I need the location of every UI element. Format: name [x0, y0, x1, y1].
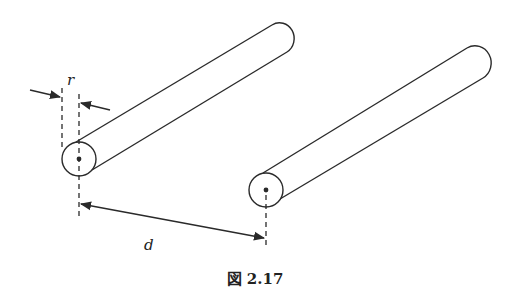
- diagram-canvas: [0, 0, 510, 296]
- left-conductor: [62, 23, 294, 176]
- right-conductor: [249, 46, 491, 207]
- figure-caption: 図 2.17: [0, 267, 510, 288]
- radius-arrows: [30, 90, 110, 110]
- distance-label: d: [144, 236, 154, 254]
- radius-label: r: [67, 71, 74, 89]
- distance-arrow: [81, 204, 264, 238]
